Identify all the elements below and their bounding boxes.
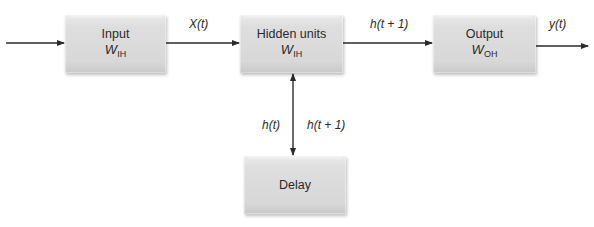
- output-node: Output WOH: [433, 15, 536, 73]
- hidden-units-node-weight: WIH: [281, 42, 302, 62]
- delay-node-label: Delay: [279, 178, 311, 193]
- input-node-label: Input: [102, 27, 130, 42]
- hidden-units-node: Hidden units WIH: [240, 15, 343, 73]
- edge-label-h-t: h(t): [262, 118, 280, 132]
- edge-label-h-t-plus-1-top: h(t + 1): [370, 17, 408, 31]
- output-node-weight: WOH: [472, 42, 498, 62]
- input-node: Input WIH: [65, 15, 166, 73]
- edge-label-x-t: X(t): [189, 17, 208, 31]
- input-node-weight: WIH: [105, 42, 126, 62]
- hidden-units-node-label: Hidden units: [257, 27, 327, 42]
- edge-label-h-t-plus-1-side: h(t + 1): [307, 118, 345, 132]
- output-node-label: Output: [466, 27, 504, 42]
- edge-label-y-t: y(t): [549, 17, 566, 31]
- delay-node: Delay: [244, 156, 346, 214]
